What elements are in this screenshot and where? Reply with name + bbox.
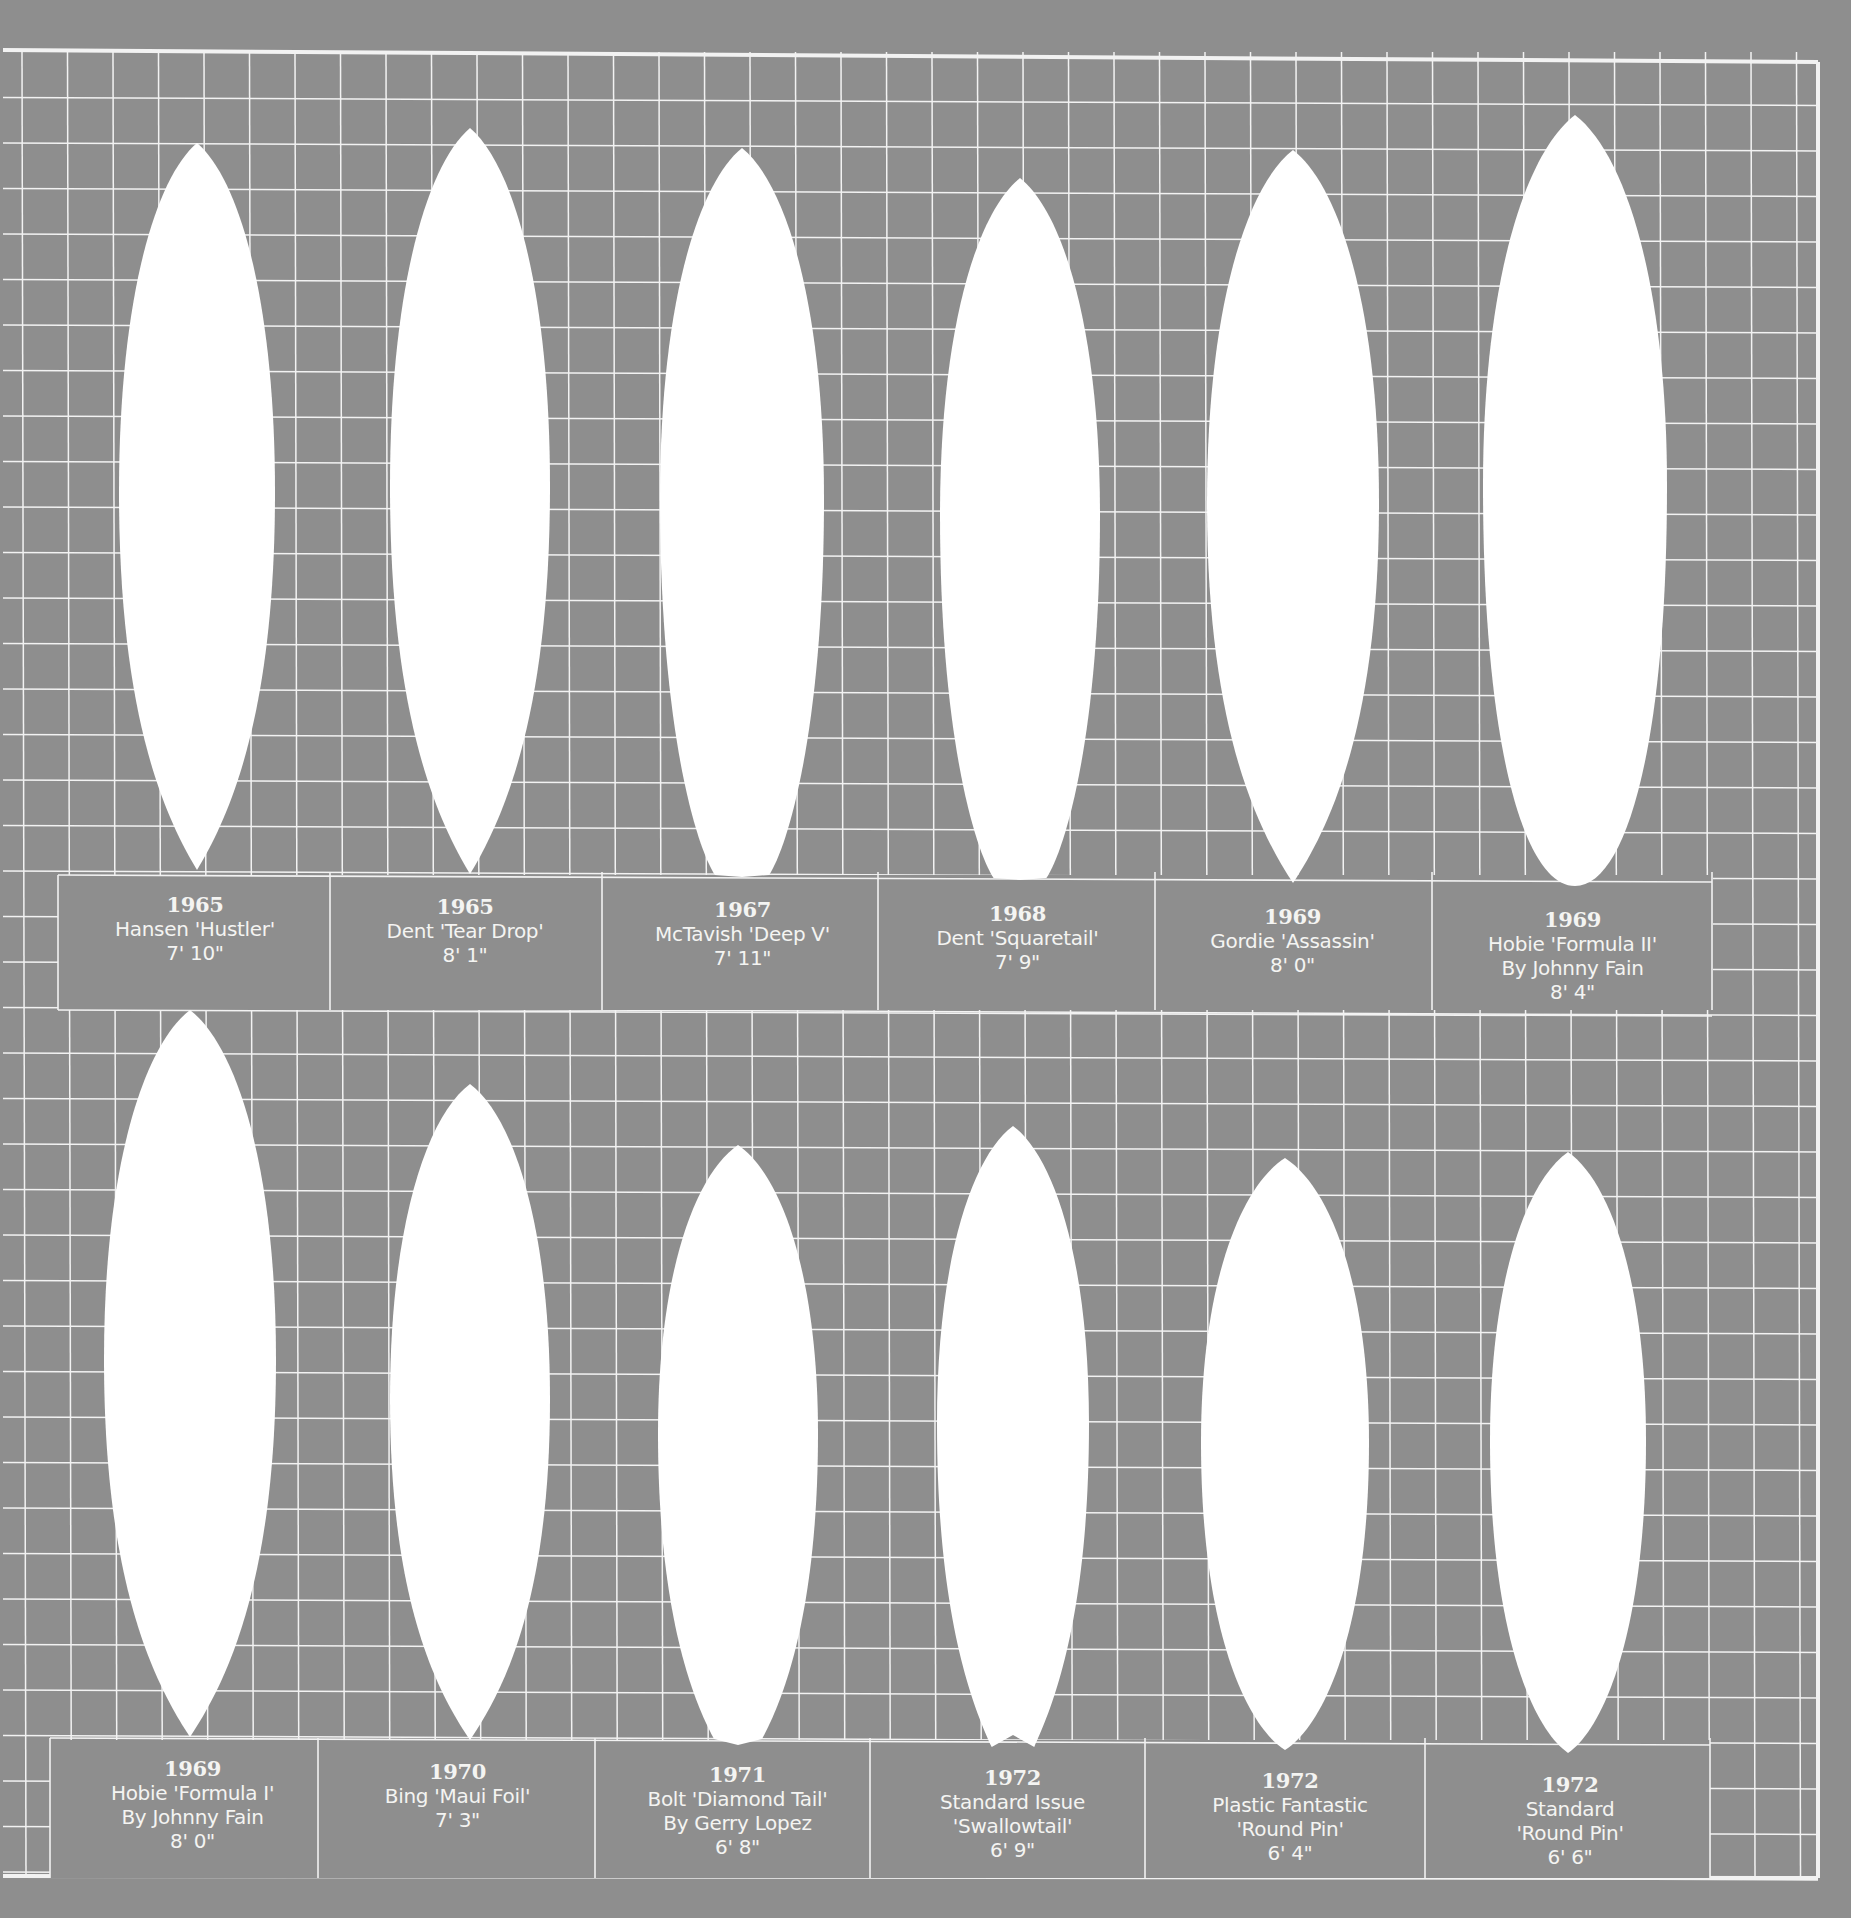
board-label: 1972 Standard 'Round Pin' 6' 6" bbox=[1430, 1773, 1710, 1869]
board-name: Bing 'Maui Foil' bbox=[320, 1784, 595, 1808]
board-label: 1965 Dent 'Tear Drop' 8' 1" bbox=[330, 895, 600, 967]
board-length: 8' 1" bbox=[330, 943, 600, 967]
board-label: 1969 Hobie 'Formula I' By Johnny Fain 8'… bbox=[55, 1757, 330, 1853]
surfboard-outline bbox=[660, 148, 824, 877]
board-tail-name: 'Swallowtail' bbox=[875, 1814, 1150, 1838]
board-year: 1972 bbox=[1430, 1773, 1710, 1797]
board-name: Bolt 'Diamond Tail' bbox=[600, 1787, 875, 1811]
board-year: 1970 bbox=[320, 1760, 595, 1784]
board-year: 1969 bbox=[1155, 905, 1430, 929]
board-name: Dent 'Squaretail' bbox=[880, 926, 1155, 950]
board-length: 8' 0" bbox=[55, 1829, 330, 1853]
surfboard-outline bbox=[658, 1145, 818, 1745]
board-length: 6' 9" bbox=[875, 1838, 1150, 1862]
board-name: McTavish 'Deep V' bbox=[605, 922, 880, 946]
board-shaper: By Johnny Fain bbox=[55, 1805, 330, 1829]
board-name: Plastic Fantastic bbox=[1150, 1793, 1430, 1817]
board-label: 1965 Hansen 'Hustler' 7' 10" bbox=[60, 893, 330, 965]
board-label: 1971 Bolt 'Diamond Tail' By Gerry Lopez … bbox=[600, 1763, 875, 1859]
board-length: 7' 9" bbox=[880, 950, 1155, 974]
board-label: 1972 Standard Issue 'Swallowtail' 6' 9" bbox=[875, 1766, 1150, 1862]
board-year: 1972 bbox=[1150, 1769, 1430, 1793]
surfboard-outline bbox=[104, 1010, 276, 1737]
surfboard-outline bbox=[1207, 150, 1379, 883]
board-year: 1968 bbox=[880, 902, 1155, 926]
board-name: Hansen 'Hustler' bbox=[60, 917, 330, 941]
board-year: 1972 bbox=[875, 1766, 1150, 1790]
surfboard-outline bbox=[1483, 115, 1667, 886]
board-label: 1968 Dent 'Squaretail' 7' 9" bbox=[880, 902, 1155, 974]
board-shaper: By Johnny Fain bbox=[1435, 956, 1710, 980]
board-length: 6' 8" bbox=[600, 1835, 875, 1859]
board-length: 8' 4" bbox=[1435, 980, 1710, 1004]
board-label: 1972 Plastic Fantastic 'Round Pin' 6' 4" bbox=[1150, 1769, 1430, 1865]
board-name: Standard Issue bbox=[875, 1790, 1150, 1814]
board-length: 8' 0" bbox=[1155, 953, 1430, 977]
board-length: 7' 10" bbox=[60, 941, 330, 965]
board-length: 7' 3" bbox=[320, 1808, 595, 1832]
board-label: 1969 Gordie 'Assassin' 8' 0" bbox=[1155, 905, 1430, 977]
board-year: 1969 bbox=[1435, 908, 1710, 932]
board-length: 7' 11" bbox=[605, 946, 880, 970]
board-name: Gordie 'Assassin' bbox=[1155, 929, 1430, 953]
board-length: 6' 4" bbox=[1150, 1841, 1430, 1865]
board-label: 1970 Bing 'Maui Foil' 7' 3" bbox=[320, 1760, 595, 1832]
board-label: 1969 Hobie 'Formula II' By Johnny Fain 8… bbox=[1435, 908, 1710, 1004]
board-name: Hobie 'Formula I' bbox=[55, 1781, 330, 1805]
board-shaper: By Gerry Lopez bbox=[600, 1811, 875, 1835]
board-year: 1965 bbox=[330, 895, 600, 919]
board-tail-name: 'Round Pin' bbox=[1150, 1817, 1430, 1841]
board-tail-name: 'Round Pin' bbox=[1430, 1821, 1710, 1845]
board-name: Standard bbox=[1430, 1797, 1710, 1821]
board-year: 1971 bbox=[600, 1763, 875, 1787]
surfboard-chart-sheet: 1965 Hansen 'Hustler' 7' 10" 1965 Dent '… bbox=[0, 0, 1851, 1918]
board-label: 1967 McTavish 'Deep V' 7' 11" bbox=[605, 898, 880, 970]
board-year: 1967 bbox=[605, 898, 880, 922]
surfboard-outline bbox=[937, 1126, 1089, 1747]
surfboard-outline bbox=[390, 128, 550, 874]
board-name: Hobie 'Formula II' bbox=[1435, 932, 1710, 956]
board-name: Dent 'Tear Drop' bbox=[330, 919, 600, 943]
board-year: 1965 bbox=[60, 893, 330, 917]
board-year: 1969 bbox=[55, 1757, 330, 1781]
board-length: 6' 6" bbox=[1430, 1845, 1710, 1869]
